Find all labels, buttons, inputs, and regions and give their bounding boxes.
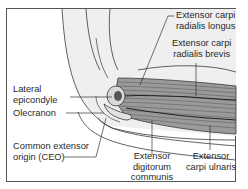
label-ceo-line2: origin (CEO) — [13, 152, 89, 163]
label-ecrb-line1: Extensor carpi — [172, 38, 231, 49]
label-olecranon: Olecranon — [13, 108, 56, 119]
label-ceo-line1: Common extensor — [13, 141, 89, 152]
label-ceo: Common extensor origin (CEO) — [13, 141, 89, 162]
label-ecu-line1: Extensor — [185, 151, 237, 162]
label-edc-line2: digitorum — [129, 162, 175, 173]
label-ecrb-line2: radialis brevis — [172, 49, 231, 60]
label-ecu-line2: carpi ulnaris — [185, 162, 237, 173]
label-ecrl-line1: Extensor carpi — [176, 10, 235, 21]
label-ecu: Extensor carpi ulnaris — [185, 151, 237, 172]
label-lateral-epicondyle: Lateral epicondyle — [13, 84, 57, 105]
label-ecrb: Extensor carpi radialis brevis — [172, 38, 231, 59]
label-edc-line1: Extensor — [129, 151, 175, 162]
label-lateral-epicondyle-line2: epicondyle — [13, 95, 57, 106]
label-lateral-epicondyle-line1: Lateral — [13, 84, 57, 95]
label-ecrl-line2: radialis longus — [176, 21, 235, 32]
label-edc: Extensor digitorum communis — [129, 151, 175, 183]
label-ecrl: Extensor carpi radialis longus — [176, 10, 235, 31]
label-edc-line3: communis — [129, 172, 175, 183]
label-olecranon-line1: Olecranon — [13, 108, 56, 119]
epicondyle-core — [114, 91, 122, 101]
